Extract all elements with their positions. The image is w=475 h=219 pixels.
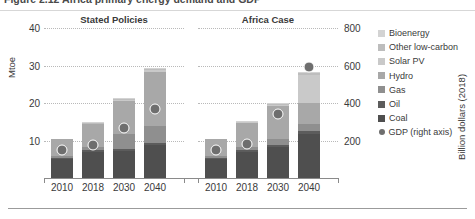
bar-segment-solar-pv bbox=[144, 70, 166, 72]
legend-item-bioenergy[interactable]: Bioenergy bbox=[378, 26, 474, 40]
bar-segment-other-low-carbon bbox=[144, 69, 166, 70]
bar-segment-oil bbox=[113, 149, 135, 151]
gdp-marker-stated-policies-2010 bbox=[57, 144, 68, 155]
plot-area: Stated Policies Africa Case 10203040 200… bbox=[44, 28, 338, 178]
legend-swatch-icon bbox=[378, 58, 385, 65]
legend-label: Gas bbox=[389, 85, 406, 95]
legend-swatch-icon bbox=[378, 30, 385, 37]
left-tick-40: 40 bbox=[29, 23, 40, 34]
legend-swatch-icon bbox=[378, 72, 385, 79]
gdp-marker-africa-case-2018 bbox=[242, 138, 253, 149]
bar-segment-hydro bbox=[298, 103, 320, 124]
right-tick-800: 800 bbox=[344, 23, 361, 34]
x-tick-label-2010: 2010 bbox=[205, 182, 227, 193]
x-tick-label-2018: 2018 bbox=[82, 182, 104, 193]
bar-segment-gas bbox=[267, 139, 289, 145]
bar-segment-oil bbox=[205, 158, 227, 160]
bar-segment-gas bbox=[113, 134, 135, 149]
legend-label: GDP (right axis) bbox=[389, 127, 453, 137]
bar-segment-gas bbox=[51, 156, 73, 158]
bar-segment-coal bbox=[51, 159, 73, 178]
right-tick-400: 400 bbox=[344, 98, 361, 109]
group-bracket-start-2 bbox=[198, 178, 199, 183]
legend-item-hydro[interactable]: Hydro bbox=[378, 69, 474, 83]
legend-item-other-low-carbon[interactable]: Other low-carbon bbox=[378, 40, 474, 54]
bar-segment-coal bbox=[113, 151, 135, 178]
bar-segment-bioenergy bbox=[113, 98, 135, 99]
bar-segment-coal bbox=[298, 134, 320, 178]
bar-segment-coal bbox=[205, 159, 227, 178]
bar-segment-bioenergy bbox=[267, 103, 289, 104]
right-tick-200: 200 bbox=[344, 135, 361, 146]
left-axis-label: Mtoe bbox=[6, 57, 17, 78]
legend-swatch-icon bbox=[378, 115, 385, 122]
gridline-40-group1 bbox=[44, 28, 184, 29]
bar-segment-other-low-carbon bbox=[113, 99, 135, 100]
left-tick-10: 10 bbox=[29, 135, 40, 146]
bar-segment-other-low-carbon bbox=[267, 103, 289, 104]
group-title-africa-case: Africa Case bbox=[198, 14, 338, 25]
bar-segment-solar-pv bbox=[298, 75, 320, 103]
x-axis-line bbox=[44, 178, 338, 179]
right-tick-600: 600 bbox=[344, 60, 361, 71]
gdp-marker-stated-policies-2030 bbox=[119, 123, 130, 134]
x-tick-label-2010: 2010 bbox=[51, 182, 73, 193]
bar-segment-oil bbox=[267, 145, 289, 147]
group-bracket-start-1 bbox=[44, 178, 45, 183]
bar-segment-coal bbox=[267, 147, 289, 179]
footer-divider bbox=[8, 208, 467, 209]
legend-label: Hydro bbox=[389, 71, 413, 81]
legend-swatch-icon bbox=[378, 101, 385, 108]
x-tick-label-2030: 2030 bbox=[267, 182, 289, 193]
bar-africa-case-2018 bbox=[236, 121, 258, 178]
gridline-40-group2 bbox=[198, 28, 338, 29]
gdp-marker-africa-case-2040 bbox=[304, 62, 315, 73]
legend-item-gas[interactable]: Gas bbox=[378, 83, 474, 97]
gdp-marker-africa-case-2030 bbox=[273, 109, 284, 120]
title-divider bbox=[0, 10, 475, 11]
bar-segment-bioenergy bbox=[144, 68, 166, 69]
group-bracket-end-2 bbox=[338, 178, 339, 183]
legend: BioenergyOther low-carbonSolar PVHydroGa… bbox=[378, 26, 474, 140]
bar-segment-hydro bbox=[144, 72, 166, 125]
bar-segment-oil bbox=[51, 158, 73, 160]
x-tick-label-2040: 2040 bbox=[144, 182, 166, 193]
bar-segment-solar-pv bbox=[82, 123, 104, 124]
gridline-30-group1 bbox=[44, 66, 184, 67]
x-tick-label-2018: 2018 bbox=[236, 182, 258, 193]
bar-segment-coal bbox=[144, 145, 166, 178]
gdp-marker-africa-case-2010 bbox=[211, 144, 222, 155]
gdp-marker-stated-policies-2018 bbox=[88, 140, 99, 151]
gridline-30-group2 bbox=[198, 66, 338, 67]
legend-item-oil[interactable]: Oil bbox=[378, 97, 474, 111]
bar-segment-oil bbox=[298, 131, 320, 134]
legend-label: Coal bbox=[389, 113, 408, 123]
bar-stated-policies-2040 bbox=[144, 68, 166, 178]
legend-item-solar-pv[interactable]: Solar PV bbox=[378, 54, 474, 68]
bar-segment-oil bbox=[144, 143, 166, 145]
bar-stated-policies-2030 bbox=[113, 98, 135, 178]
bar-segment-gas bbox=[298, 124, 320, 132]
bar-segment-coal bbox=[82, 152, 104, 178]
bar-segment-solar-pv bbox=[236, 122, 258, 123]
bar-africa-case-2040 bbox=[298, 72, 320, 178]
legend-label: Bioenergy bbox=[389, 28, 430, 38]
legend-swatch-icon bbox=[379, 129, 385, 135]
left-tick-30: 30 bbox=[29, 60, 40, 71]
legend-item-gdp-right-axis[interactable]: GDP (right axis) bbox=[378, 125, 474, 139]
group-bracket-end-1 bbox=[184, 178, 185, 183]
legend-swatch-icon bbox=[378, 44, 385, 51]
gdp-marker-stated-policies-2040 bbox=[150, 103, 161, 114]
legend-label: Oil bbox=[389, 99, 400, 109]
bar-segment-solar-pv bbox=[267, 105, 289, 107]
figure-title: Figure 2.12 Africa primary energy demand… bbox=[4, 0, 384, 7]
x-tick-label-2040: 2040 bbox=[298, 182, 320, 193]
group-title-stated-policies: Stated Policies bbox=[44, 14, 184, 25]
legend-item-coal[interactable]: Coal bbox=[378, 111, 474, 125]
bar-segment-gas bbox=[205, 156, 227, 158]
x-tick-label-2030: 2030 bbox=[113, 182, 135, 193]
bar-segment-oil bbox=[236, 150, 258, 152]
legend-label: Other low-carbon bbox=[389, 42, 458, 52]
legend-swatch-icon bbox=[378, 86, 385, 93]
bar-segment-gas bbox=[144, 126, 166, 143]
